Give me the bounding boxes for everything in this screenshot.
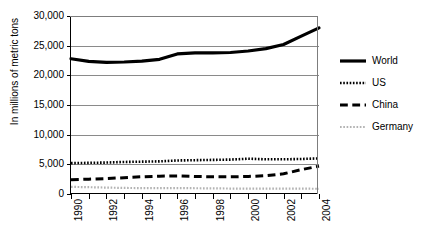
legend-item-china[interactable]: China: [340, 94, 427, 116]
legend-label: Germany: [372, 122, 413, 132]
series-line-us: [71, 158, 319, 163]
series-line-china: [71, 166, 319, 180]
x-tick-mark: [319, 194, 320, 199]
legend-swatch-world-icon: [340, 55, 366, 67]
y-tick-label: 5,000: [20, 159, 64, 169]
y-tick-label: 20,000: [20, 70, 64, 80]
series-line-world: [71, 28, 319, 62]
x-tick-label: 1992: [109, 199, 119, 221]
legend-swatch-germany-icon: [340, 121, 366, 133]
plot-frame-right: [317, 16, 318, 194]
y-tick-label: 0: [20, 189, 64, 199]
legend-label: US: [372, 78, 386, 88]
x-axis-tick-labels: 19901992199419961998200020022004: [70, 199, 318, 241]
plot-area: [70, 16, 318, 194]
x-tick-label: 1996: [180, 199, 190, 221]
line-chart: In millions of metric tons 05,00010,0001…: [0, 0, 427, 241]
x-tick-label: 1998: [216, 199, 226, 221]
legend-label: World: [372, 56, 398, 66]
legend-label: China: [372, 100, 398, 110]
legend-item-us[interactable]: US: [340, 72, 427, 94]
y-tick-label: 25,000: [20, 41, 64, 51]
y-tick-label: 30,000: [20, 11, 64, 21]
x-tick-label: 1990: [74, 199, 84, 221]
x-tick-label: 1994: [145, 199, 155, 221]
legend-swatch-us-icon: [340, 77, 366, 89]
y-axis-tick-labels: 05,00010,00015,00020,00025,00030,000: [18, 0, 64, 241]
x-tick-label: 2004: [322, 199, 332, 221]
series-line-germany: [71, 187, 319, 189]
legend-item-world[interactable]: World: [340, 50, 427, 72]
series-group: [71, 16, 319, 194]
x-tick-label: 2000: [251, 199, 261, 221]
y-tick-label: 10,000: [20, 130, 64, 140]
legend-swatch-china-icon: [340, 99, 366, 111]
y-tick-label: 15,000: [20, 100, 64, 110]
x-tick-label: 2002: [287, 199, 297, 221]
legend-item-germany[interactable]: Germany: [340, 116, 427, 138]
chart-legend: WorldUSChinaGermany: [340, 50, 427, 138]
plot-frame-top: [70, 16, 318, 17]
